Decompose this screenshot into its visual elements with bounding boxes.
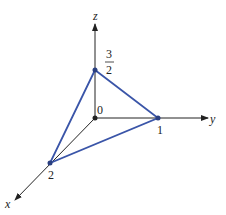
x-axis-label: x — [4, 197, 11, 211]
x-intercept-label: 2 — [48, 168, 54, 182]
y-intercept-point — [156, 116, 161, 121]
triangle-face — [50, 70, 158, 163]
y-intercept-label: 1 — [157, 123, 163, 137]
diagram: z y x 0 1 2 3 2 — [0, 0, 226, 215]
origin-label: 0 — [97, 103, 103, 117]
z-intercept-numerator: 3 — [106, 47, 112, 61]
x-axis — [15, 118, 95, 200]
y-axis-label: y — [209, 112, 216, 126]
x-intercept-point — [48, 161, 53, 166]
z-intercept-denominator: 2 — [106, 63, 112, 77]
z-axis-label: z — [92, 9, 98, 23]
tetrahedron-plot: z y x 0 1 2 3 2 — [0, 0, 226, 215]
z-intercept-point — [93, 68, 98, 73]
